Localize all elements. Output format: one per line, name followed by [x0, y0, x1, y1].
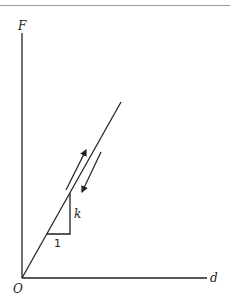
y-axis-label: F	[17, 19, 27, 33]
slope-rise-label: k	[74, 207, 81, 221]
x-axis-label: d	[210, 271, 218, 285]
unloading-arrow-icon	[82, 152, 101, 192]
stiffness-line	[22, 102, 121, 278]
slope-run-label: 1	[54, 237, 61, 250]
origin-label: O	[13, 282, 23, 296]
force-displacement-diagram: F d O k 1	[0, 0, 230, 297]
